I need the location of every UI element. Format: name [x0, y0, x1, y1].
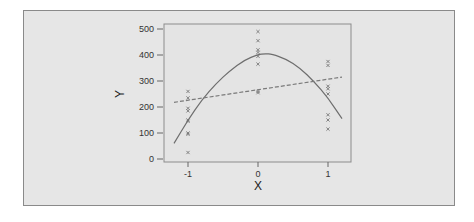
y-tick-label: 300: [139, 76, 154, 86]
x-tick-label: 1: [325, 169, 330, 179]
y-axis-title: Y: [113, 90, 127, 98]
x-axis-title: X: [254, 179, 262, 193]
y-tick-label: 0: [149, 154, 154, 164]
scatter-chart: 0100200300400500-101 X Y: [0, 0, 474, 222]
y-tick-label: 200: [139, 102, 154, 112]
x-tick-label: -1: [184, 169, 192, 179]
x-tick-label: 0: [255, 169, 260, 179]
plot-area: [164, 24, 351, 162]
y-tick-label: 100: [139, 128, 154, 138]
y-tick-label: 500: [139, 24, 154, 34]
y-tick-label: 400: [139, 50, 154, 60]
